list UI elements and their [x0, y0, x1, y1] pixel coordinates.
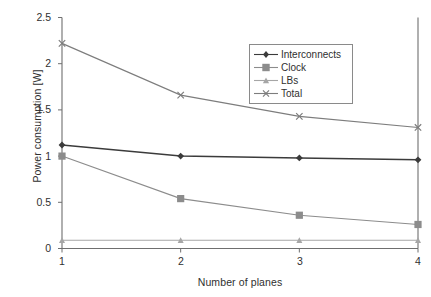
data-point-marker-diamond [177, 153, 184, 160]
series-line [62, 43, 418, 127]
legend-label: LBs [279, 76, 298, 86]
legend-label: Interconnects [279, 50, 341, 60]
data-point-marker-diamond [296, 155, 303, 162]
legend-item-total[interactable]: Total [253, 87, 348, 100]
axis-spine [62, 18, 418, 249]
series-line [62, 156, 418, 224]
series-total [59, 40, 421, 130]
series-line [62, 145, 418, 160]
x-axis-title: Number of planes [62, 276, 418, 288]
legend-marker-diamond-icon [253, 48, 279, 61]
data-point-marker-diamond [415, 156, 422, 163]
y-axis-tick-label: 0 [11, 243, 51, 254]
data-point-marker-square [296, 212, 303, 219]
data-point-marker-square [177, 195, 184, 202]
y-axis-tick-label: 2.5 [11, 12, 51, 23]
x-axis-tick-label: 2 [168, 256, 194, 267]
y-axis-title: Power consumption [W] [31, 26, 43, 226]
x-axis-tick-label: 1 [49, 256, 75, 267]
legend-marker-cross-icon [253, 87, 279, 100]
x-axis-tick-label: 4 [405, 256, 431, 267]
legend-label: Clock [279, 63, 306, 73]
series-clock [58, 153, 421, 229]
data-point-marker-diamond [59, 142, 66, 149]
legend-item-lbs[interactable]: LBs [253, 74, 348, 87]
series-lbs [59, 237, 421, 243]
legend-item-interconnects[interactable]: Interconnects [253, 48, 348, 61]
legend-marker-triangle-icon [253, 74, 279, 87]
chart-figure: 2.5 2 1.5 1 0.5 0 1 2 3 4 Power consumpt… [0, 0, 431, 297]
chart-legend: Interconnects Clock LBs [249, 44, 353, 104]
chart-plot-area [0, 0, 431, 297]
x-axis-tick-label: 3 [287, 256, 313, 267]
series-interconnects [59, 142, 422, 164]
legend-item-clock[interactable]: Clock [253, 61, 348, 74]
data-point-marker-square [414, 221, 421, 228]
data-point-marker-square [58, 153, 65, 160]
legend-marker-square-icon [253, 61, 279, 74]
legend-label: Total [279, 89, 302, 99]
